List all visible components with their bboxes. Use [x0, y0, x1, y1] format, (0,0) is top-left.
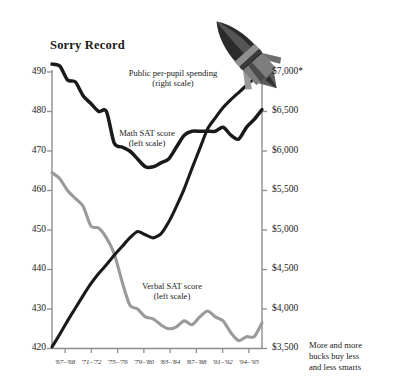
annotation-verbal-sat-line1: Verbal SAT score	[112, 281, 232, 291]
rocket-icon	[199, 5, 295, 104]
y-right-tick-5000: $5,000	[272, 224, 298, 234]
y-right-tick-4000: $4,000	[272, 303, 298, 313]
annotation-verbal-sat: Verbal SAT score (left scale)	[112, 281, 232, 302]
y-left-tick-440: 440	[12, 263, 46, 273]
series-line-verbal-sat	[52, 173, 262, 341]
y-left-tick-430: 430	[12, 303, 46, 313]
annotation-public-spending: Public per-pupil spending (right scale)	[108, 68, 238, 89]
y-left-tick-480: 480	[12, 105, 46, 115]
caption-line1: More and more	[309, 340, 393, 351]
annotation-math-sat-line2: (left scale)	[92, 138, 202, 148]
chart-title: Sorry Record	[50, 38, 125, 53]
chart-figure: Sorry Record 490480470460450440430420 $7…	[0, 0, 397, 390]
y-right-tick-5500: $5,500	[272, 184, 298, 194]
annotation-math-sat-line1: Math SAT score	[92, 128, 202, 138]
annotation-public-spending-line2: (right scale)	[108, 78, 238, 88]
chart-caption: More and more bucks buy less and less sm…	[309, 340, 393, 373]
x-tick-7: '94–'95	[227, 358, 271, 366]
y-right-tick-6500: $6,500	[272, 105, 298, 115]
y-left-tick-490: 490	[12, 66, 46, 76]
annotation-public-spending-line1: Public per-pupil spending	[108, 68, 238, 78]
caption-line2: bucks buy less	[309, 351, 393, 362]
y-right-tick-7000: $7,000*	[272, 66, 303, 76]
y-left-tick-460: 460	[12, 184, 46, 194]
y-right-tick-3500: $3,500	[272, 342, 298, 352]
caption-line3: and less smarts	[309, 362, 393, 373]
y-left-tick-470: 470	[12, 145, 46, 155]
chart-canvas	[0, 0, 397, 390]
annotation-math-sat: Math SAT score (left scale)	[92, 128, 202, 149]
y-right-tick-6000: $6,000	[272, 145, 298, 155]
axes	[47, 70, 267, 353]
annotation-verbal-sat-line2: (left scale)	[112, 291, 232, 301]
y-left-tick-420: 420	[12, 342, 46, 352]
y-right-tick-4500: $4,500	[272, 263, 298, 273]
y-left-tick-450: 450	[12, 224, 46, 234]
